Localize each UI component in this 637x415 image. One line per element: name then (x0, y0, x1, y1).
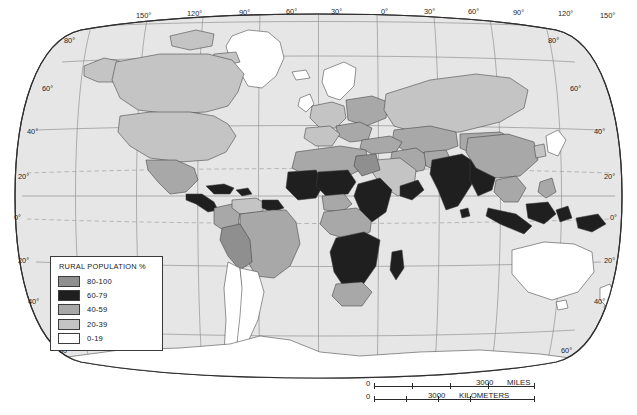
legend-label: 0-19 (87, 334, 103, 343)
lat-label-left-80n: 80° (64, 36, 75, 45)
lat-label-right-0: 0° (610, 213, 617, 222)
legend-title: RURAL POPULATION % (59, 262, 156, 271)
lon-label-0: 0° (381, 7, 388, 16)
lat-label-right-20s: 20° (604, 256, 615, 265)
scale-miles-zero: 0 (366, 379, 370, 388)
lon-label-90e: 90° (513, 8, 524, 17)
legend-item: 0-19 (58, 333, 156, 344)
lat-label-right-60s: 60° (561, 346, 572, 355)
lat-label-left-40s: 40° (28, 297, 39, 306)
lon-label-60w: 60° (286, 7, 297, 16)
legend-label: 60-79 (87, 291, 107, 300)
legend-label: 80-100 (87, 277, 112, 286)
legend-items: 80-10060-7940-5920-390-19 (58, 276, 156, 344)
region-tasmania[interactable] (556, 300, 568, 310)
lon-label-30w: 30° (331, 7, 342, 16)
lat-label-right-80n: 80° (548, 36, 559, 45)
scale-miles-unit: MILES (507, 378, 530, 387)
scale-km-unit: KILOMETERS (459, 391, 509, 400)
lon-label-120w: 120° (187, 9, 202, 18)
scale-bar: 0 3000 MILES 0 3000 KILOMETERS (366, 382, 566, 403)
legend-swatch (58, 333, 80, 344)
region-korea[interactable] (534, 144, 546, 158)
world-map[interactable]: .c0 { fill:#ffffff; } .c20 { fill:#c4c4c… (0, 0, 637, 415)
region-sri-lanka[interactable] (460, 208, 470, 218)
scale-bar-miles: 0 3000 MILES (366, 382, 566, 390)
lat-label-left-60n: 60° (42, 84, 53, 93)
lat-label-right-20n: 20° (604, 172, 615, 181)
map-legend: RURAL POPULATION % 80-10060-7940-5920-39… (50, 256, 163, 351)
scale-km-zero: 0 (366, 392, 370, 401)
lon-label-150e: 150° (600, 11, 615, 20)
lat-label-right-40n: 40° (594, 127, 605, 136)
scale-km-value: 3000 (428, 391, 445, 400)
map-screenshot: .c0 { fill:#ffffff; } .c20 { fill:#c4c4c… (0, 0, 637, 415)
legend-item: 60-79 (58, 290, 156, 301)
region-canada[interactable] (112, 54, 244, 114)
lon-label-150w: 150° (136, 11, 151, 20)
legend-label: 20-39 (87, 320, 107, 329)
lat-label-left-0: 0° (14, 213, 21, 222)
lon-label-30e: 30° (424, 7, 435, 16)
scale-bar-kilometers: 0 3000 KILOMETERS (366, 395, 566, 403)
lat-label-left-20n: 20° (18, 172, 29, 181)
legend-item: 20-39 (58, 319, 156, 330)
scale-miles-value: 3000 (476, 378, 493, 387)
lon-label-120e: 120° (558, 9, 573, 18)
lat-label-left-40n: 40° (27, 127, 38, 136)
legend-item: 40-59 (58, 304, 156, 315)
legend-item: 80-100 (58, 276, 156, 287)
lat-label-left-20s: 20° (18, 256, 29, 265)
legend-swatch (58, 276, 80, 287)
lon-label-90w: 90° (239, 8, 250, 17)
lat-label-right-60n: 60° (570, 84, 581, 93)
legend-swatch (58, 304, 80, 315)
legend-swatch (58, 290, 80, 301)
legend-swatch (58, 319, 80, 330)
lon-label-60e: 60° (468, 7, 479, 16)
lat-label-right-40s: 40° (594, 297, 605, 306)
legend-label: 40-59 (87, 305, 107, 314)
